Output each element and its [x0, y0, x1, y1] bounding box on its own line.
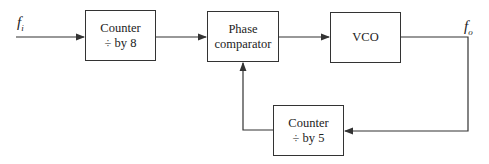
output-frequency-label: fo [464, 18, 473, 37]
counter-divide-by-8-block: Counter ÷ by 8 [85, 10, 156, 61]
block-sublabel: ÷ by 5 [293, 131, 325, 146]
block-label: Counter [288, 116, 328, 131]
phase-comparator-block: Phase comparator [207, 11, 279, 62]
block-label: VCO [352, 30, 378, 45]
block-label: Counter [100, 21, 140, 36]
block-label: Phase [228, 22, 257, 37]
block-sublabel: comparator [215, 37, 272, 52]
input-frequency-label: fi [17, 14, 24, 33]
vco-block: VCO [330, 12, 401, 63]
counter-divide-by-5-block: Counter ÷ by 5 [273, 105, 344, 156]
block-sublabel: ÷ by 8 [105, 36, 137, 51]
